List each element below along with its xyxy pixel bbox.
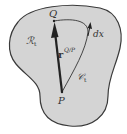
label-q: Q: [49, 8, 57, 19]
point-p-dot: [61, 91, 63, 93]
label-dx: dx: [93, 29, 104, 39]
point-q-dot: [53, 20, 55, 22]
label-vector-sup: Q/P: [64, 46, 76, 53]
diagram-canvas: Q P ℛ t r Q/P dx 𝒞 t: [0, 0, 127, 134]
region-shape: [9, 5, 121, 126]
label-p: P: [57, 95, 65, 106]
